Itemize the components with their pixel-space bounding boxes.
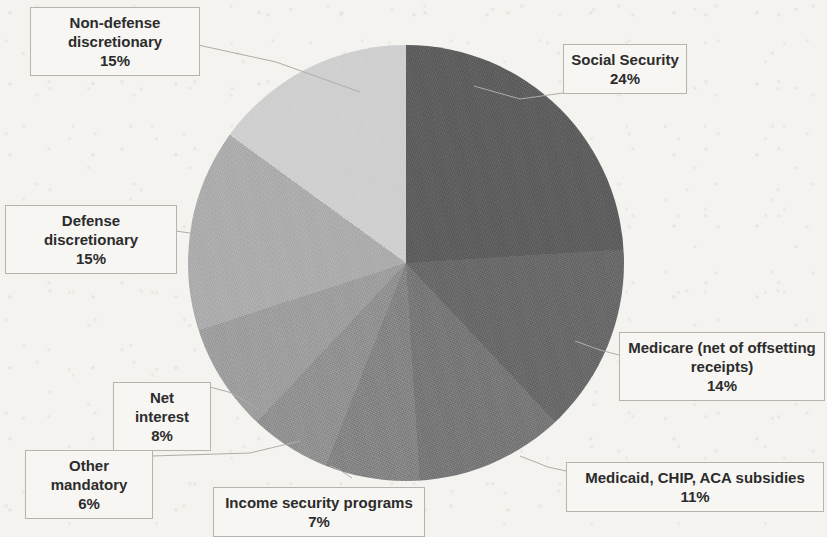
pie-chart <box>188 45 624 481</box>
label-non-defense-discretionary-name: Non-defense discretionary <box>68 14 162 50</box>
label-other-mandatory-pct: 6% <box>33 494 145 513</box>
label-medicaid-chip-aca-name: Medicaid, CHIP, ACA subsidies <box>585 469 805 486</box>
label-income-security-programs[interactable]: Income security programs 7% <box>213 487 425 537</box>
label-net-interest-name: Net interest <box>135 389 189 425</box>
label-medicare-pct: 14% <box>627 376 817 395</box>
label-medicare[interactable]: Medicare (net of offsetting receipts) 14… <box>619 332 825 401</box>
label-medicaid-chip-aca-pct: 11% <box>574 487 816 506</box>
label-net-interest-pct: 8% <box>121 426 203 445</box>
label-defense-discretionary[interactable]: Defense discretionary 15% <box>5 205 177 274</box>
label-non-defense-discretionary-pct: 15% <box>38 51 192 70</box>
label-other-mandatory[interactable]: Other mandatory 6% <box>25 450 153 519</box>
label-non-defense-discretionary[interactable]: Non-defense discretionary 15% <box>30 7 200 76</box>
label-social-security[interactable]: Social Security 24% <box>563 44 687 94</box>
pie-slices[interactable] <box>188 45 624 481</box>
label-net-interest[interactable]: Net interest 8% <box>113 382 211 451</box>
label-income-security-programs-pct: 7% <box>221 512 417 531</box>
label-income-security-programs-name: Income security programs <box>225 494 413 511</box>
label-social-security-pct: 24% <box>571 69 679 88</box>
label-other-mandatory-name: Other mandatory <box>51 457 128 493</box>
label-defense-discretionary-name: Defense discretionary <box>44 212 138 248</box>
label-medicare-name: Medicare (net of offsetting receipts) <box>628 339 816 375</box>
label-defense-discretionary-pct: 15% <box>13 249 169 268</box>
label-medicaid-chip-aca[interactable]: Medicaid, CHIP, ACA subsidies 11% <box>566 462 824 512</box>
label-social-security-name: Social Security <box>571 51 679 68</box>
